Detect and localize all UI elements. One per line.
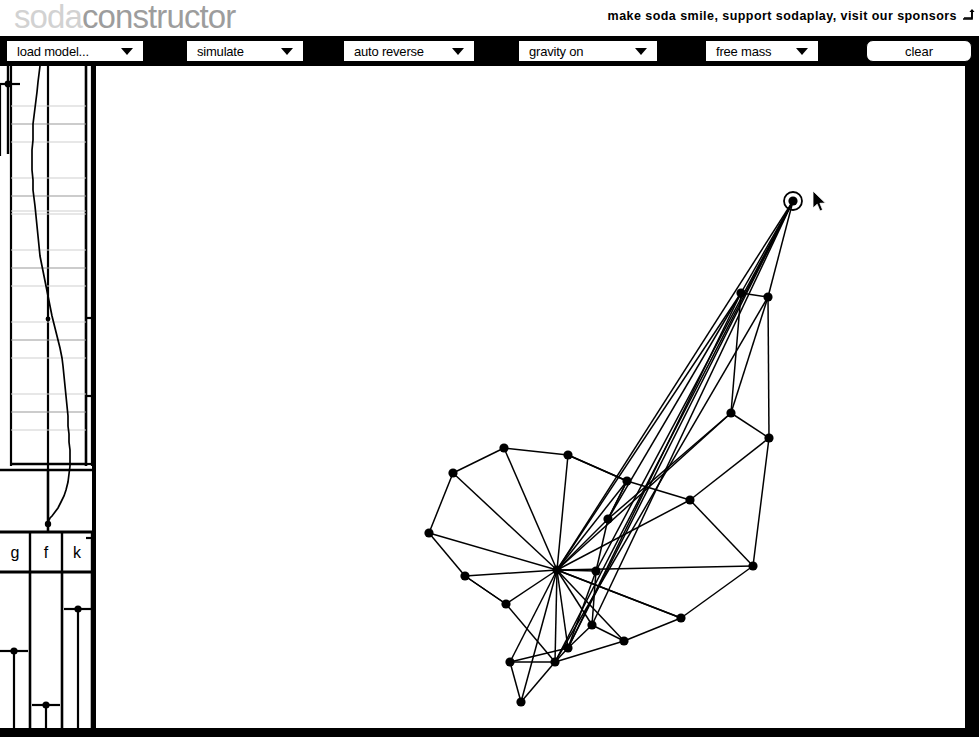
mass-node[interactable] bbox=[603, 514, 612, 523]
mass-node-dot[interactable] bbox=[516, 697, 525, 706]
clear-button[interactable]: clear bbox=[866, 40, 972, 62]
auto-reverse-dropdown[interactable]: auto reverse bbox=[343, 40, 475, 62]
tagline-link[interactable]: make soda smile, support sodaplay, visit… bbox=[608, 9, 957, 23]
spring-link[interactable] bbox=[555, 570, 557, 662]
mass-node-dot[interactable] bbox=[460, 571, 469, 580]
mass-node-dot[interactable] bbox=[726, 408, 735, 417]
mass-mode-dropdown[interactable]: free mass bbox=[705, 40, 819, 62]
muscle-wave-curve[interactable] bbox=[32, 66, 70, 524]
spring-link[interactable] bbox=[592, 201, 793, 625]
spring-link[interactable] bbox=[557, 570, 681, 618]
mass-node-dot[interactable] bbox=[685, 495, 694, 504]
mass-node[interactable] bbox=[685, 495, 694, 504]
spring-link[interactable] bbox=[557, 293, 741, 570]
mass-node-dot[interactable] bbox=[505, 657, 514, 666]
spring-link[interactable] bbox=[557, 570, 624, 641]
wave-editor-panel[interactable] bbox=[11, 66, 96, 538]
spring-link[interactable] bbox=[568, 201, 793, 648]
gravity-dropdown[interactable]: gravity on bbox=[518, 40, 658, 62]
mass-node-dot[interactable] bbox=[550, 657, 559, 666]
mass-node[interactable] bbox=[748, 561, 757, 570]
mass-node-dot[interactable] bbox=[736, 288, 745, 297]
mass-node-dot[interactable] bbox=[676, 613, 685, 622]
parameter-sliders[interactable] bbox=[0, 572, 92, 728]
spring-link[interactable] bbox=[753, 438, 769, 566]
spring-link[interactable] bbox=[555, 297, 768, 662]
spring-link[interactable] bbox=[557, 455, 568, 570]
mass-node-dot[interactable] bbox=[552, 565, 561, 574]
springiness-slider[interactable] bbox=[64, 605, 92, 728]
mass-node-dot[interactable] bbox=[501, 599, 510, 608]
spring-link[interactable] bbox=[557, 570, 596, 571]
mass-node-dot[interactable] bbox=[603, 514, 612, 523]
mass-node[interactable] bbox=[501, 599, 510, 608]
mass-node-dot[interactable] bbox=[622, 476, 631, 485]
spring-link[interactable] bbox=[504, 448, 568, 455]
mass-node-dot[interactable] bbox=[563, 450, 572, 459]
mass-node-dot[interactable] bbox=[748, 561, 757, 570]
mass-node[interactable] bbox=[736, 288, 745, 297]
mass-node-dot[interactable] bbox=[499, 443, 508, 452]
spring-link[interactable] bbox=[681, 566, 753, 618]
spring-link[interactable] bbox=[510, 662, 521, 702]
spring-link[interactable] bbox=[592, 625, 624, 641]
friction-slider-handle[interactable] bbox=[42, 701, 49, 708]
springiness-slider-handle[interactable] bbox=[74, 605, 81, 612]
spring-mass-model[interactable] bbox=[96, 66, 979, 728]
mass-node[interactable] bbox=[550, 657, 559, 666]
spring-link[interactable] bbox=[557, 566, 753, 570]
mass-node[interactable] bbox=[622, 476, 631, 485]
spring-link[interactable] bbox=[596, 201, 793, 571]
mass-node-dot[interactable] bbox=[587, 620, 596, 629]
wave-node-marker[interactable] bbox=[46, 317, 51, 322]
mass-node[interactable] bbox=[552, 565, 561, 574]
spring-link[interactable] bbox=[731, 413, 769, 438]
spring-link[interactable] bbox=[624, 618, 681, 641]
mass-node-dot[interactable] bbox=[424, 528, 433, 537]
mass-node[interactable] bbox=[505, 657, 514, 666]
spring-link[interactable] bbox=[690, 500, 753, 566]
spring-link[interactable] bbox=[429, 533, 465, 576]
mass-node-dot[interactable] bbox=[448, 468, 457, 477]
spring-link[interactable] bbox=[453, 448, 504, 473]
mass-node[interactable] bbox=[676, 613, 685, 622]
mass-node[interactable] bbox=[563, 643, 572, 652]
mass-node[interactable] bbox=[587, 620, 596, 629]
mass-node[interactable] bbox=[784, 192, 802, 210]
mass-node[interactable] bbox=[764, 433, 773, 442]
mass-node[interactable] bbox=[448, 468, 457, 477]
spring-link[interactable] bbox=[690, 438, 769, 500]
mass-node-dot[interactable] bbox=[563, 643, 572, 652]
mass-node-dot[interactable] bbox=[619, 636, 628, 645]
friction-slider[interactable] bbox=[32, 701, 60, 728]
mass-node[interactable] bbox=[460, 571, 469, 580]
spring-link[interactable] bbox=[557, 570, 568, 648]
mass-node[interactable] bbox=[499, 443, 508, 452]
gravity-slider-handle[interactable] bbox=[10, 647, 17, 654]
spring-link[interactable] bbox=[504, 448, 557, 570]
spring-link[interactable] bbox=[768, 297, 769, 438]
load-model-dropdown[interactable]: load model... bbox=[6, 40, 144, 62]
gravity-slider[interactable] bbox=[0, 647, 28, 728]
mass-node-dot[interactable] bbox=[763, 292, 772, 301]
mass-node[interactable] bbox=[763, 292, 772, 301]
spring-link[interactable] bbox=[465, 570, 557, 576]
spring-link[interactable] bbox=[568, 455, 627, 481]
mass-node[interactable] bbox=[619, 636, 628, 645]
mass-node[interactable] bbox=[591, 566, 600, 575]
simulate-dropdown[interactable]: simulate bbox=[186, 40, 304, 62]
model-canvas[interactable] bbox=[96, 66, 979, 728]
mass-node-dot[interactable] bbox=[788, 196, 797, 205]
mass-node-dot[interactable] bbox=[764, 433, 773, 442]
mass-node[interactable] bbox=[726, 408, 735, 417]
mass-node-dot[interactable] bbox=[591, 566, 600, 575]
mass-node[interactable] bbox=[424, 528, 433, 537]
spring-link[interactable] bbox=[465, 576, 506, 604]
spring-link[interactable] bbox=[768, 201, 793, 297]
external-link-arrow-icon[interactable] bbox=[961, 7, 975, 23]
mass-node[interactable] bbox=[563, 450, 572, 459]
spring-link[interactable] bbox=[429, 473, 453, 533]
spring-link[interactable] bbox=[555, 201, 793, 662]
spring-link[interactable] bbox=[557, 201, 793, 570]
mass-node[interactable] bbox=[516, 697, 525, 706]
